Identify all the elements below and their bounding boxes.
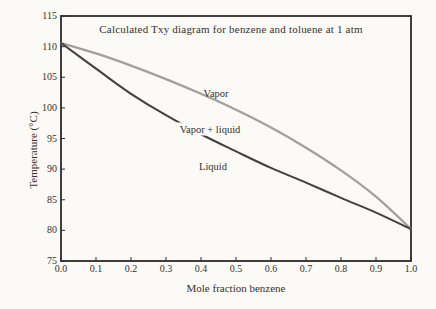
- txy-diagram-figure: Calculated Txy diagram for benzene and t…: [0, 0, 436, 309]
- x-tick-label: 0.3: [149, 263, 183, 274]
- x-tick-label: 0.5: [219, 263, 253, 274]
- y-tick-label: 95: [0, 133, 57, 145]
- liquid-curve: [61, 43, 411, 229]
- x-tick-label: 0.9: [359, 263, 393, 274]
- x-tick-label: 1.0: [394, 263, 428, 274]
- y-tick-label: 75: [0, 255, 57, 267]
- y-tick-label: 110: [0, 41, 57, 53]
- x-tick-label: 0.2: [114, 263, 148, 274]
- y-tick-label: 85: [0, 194, 57, 206]
- vapor-plus-liquid-region-label: Vapor + liquid: [175, 123, 246, 136]
- y-tick-label: 100: [0, 102, 57, 114]
- x-tick-label: 0.4: [184, 263, 218, 274]
- x-axis-label: Mole fraction benzene: [187, 282, 286, 294]
- y-tick-label: 115: [0, 10, 57, 22]
- liquid-region-label: Liquid: [196, 161, 230, 172]
- y-axis-label: Temperature (°C): [27, 111, 39, 188]
- vapor-curve: [61, 43, 411, 229]
- plot-frame: [61, 16, 411, 261]
- y-tick-label: 90: [0, 163, 57, 175]
- x-tick-label: 0.7: [289, 263, 323, 274]
- y-tick-label: 105: [0, 71, 57, 83]
- y-tick-label: 80: [0, 224, 57, 236]
- vapor-region-label: Vapor: [203, 88, 228, 99]
- x-tick-label: 0.1: [79, 263, 113, 274]
- x-tick-label: 0.6: [254, 263, 288, 274]
- x-tick-label: 0.8: [324, 263, 358, 274]
- chart-title: Calculated Txy diagram for benzene and t…: [99, 23, 362, 35]
